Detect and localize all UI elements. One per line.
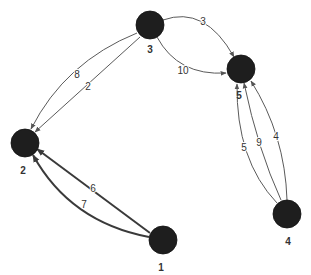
node-circle [11,129,39,157]
node-circle [227,55,255,83]
edge-3-to-2-weight-8 [31,33,137,129]
edge-weight-label: 2 [85,81,91,92]
node-label: 1 [158,262,164,273]
node-circle [273,200,301,228]
edge-weight-label: 10 [177,65,189,76]
node-5: 5 [227,55,255,101]
edge-labels-layer: 3108267594 [74,16,279,210]
edge-weight-label: 7 [81,199,87,210]
edge-weight-label: 8 [74,69,80,80]
node-label: 3 [147,44,153,55]
node-label: 4 [285,236,291,247]
node-2: 2 [11,129,39,176]
node-label: 2 [20,165,26,176]
edge-3-to-5-weight-10 [157,37,226,73]
edge-weight-label: 5 [241,142,247,153]
edge-weight-label: 9 [256,137,262,148]
edge-1-to-2-weight-7 [33,155,149,237]
node-circle [149,226,177,254]
directed-graph: 12345 3108267594 [0,0,311,275]
node-4: 4 [273,200,301,247]
edge-3-to-5-weight-3 [163,17,234,57]
node-1: 1 [149,226,177,273]
node-label: 5 [236,90,242,101]
node-3: 3 [136,11,164,55]
node-circle [136,11,164,39]
edge-weight-label: 6 [90,183,96,194]
edge-weight-label: 3 [200,16,206,27]
edges-layer [31,17,287,237]
edge-weight-label: 4 [273,131,279,142]
